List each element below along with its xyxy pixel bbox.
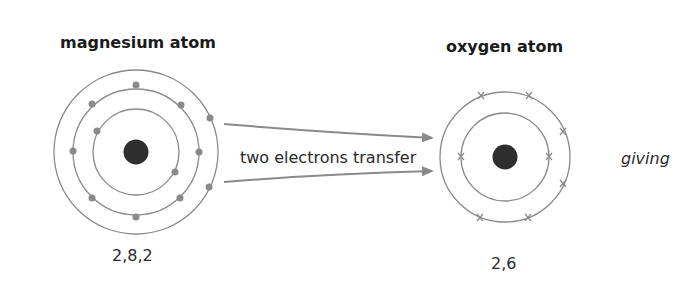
magnesium-configuration: 2,8,2	[112, 246, 153, 265]
transfer-arrow-bottom	[224, 171, 432, 182]
magnesium-nucleus	[124, 140, 149, 165]
oxygen-nucleus	[493, 145, 518, 170]
giving-text: giving	[621, 149, 670, 168]
oxygen-configuration: 2,6	[491, 254, 516, 273]
transfer-arrow-top	[224, 124, 432, 138]
transfer-label: two electrons transfer	[240, 148, 416, 167]
